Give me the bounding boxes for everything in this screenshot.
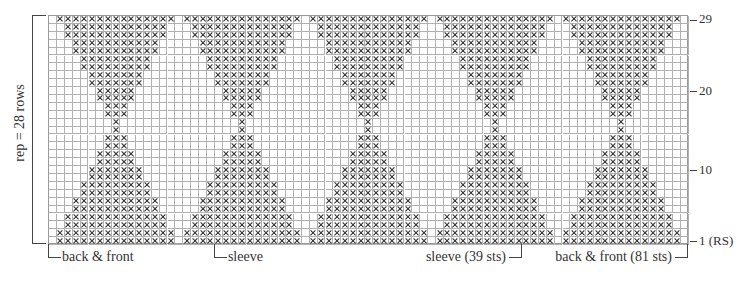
stitch-x: [412, 32, 420, 40]
stitch-x: [96, 40, 104, 48]
stitch-x: [468, 24, 476, 32]
stitch-x: [618, 206, 626, 214]
stitch-x: [626, 214, 634, 222]
stitch-blank: [428, 119, 436, 127]
stitch-blank: [507, 127, 515, 135]
stitch-blank: [57, 63, 65, 71]
stitch-x: [254, 237, 262, 245]
stitch-x: [626, 111, 634, 119]
stitch-blank: [657, 63, 665, 71]
stitch-blank: [160, 135, 168, 143]
stitch-x: [373, 103, 381, 111]
stitch-blank: [531, 135, 539, 143]
stitch-blank: [207, 166, 215, 174]
stitch-blank: [547, 119, 555, 127]
stitch-x: [318, 237, 326, 245]
stitch-x: [341, 56, 349, 64]
stitch-blank: [578, 71, 586, 79]
stitch-x: [610, 111, 618, 119]
stitch-blank: [318, 95, 326, 103]
stitch-blank: [270, 87, 278, 95]
stitch-x: [286, 24, 294, 32]
stitch-blank: [681, 150, 689, 158]
stitch-blank: [144, 135, 152, 143]
stitch-blank: [73, 158, 81, 166]
stitch-blank: [326, 79, 334, 87]
stitch-blank: [563, 32, 571, 40]
stitch-blank: [49, 71, 57, 79]
stitch-x: [247, 56, 255, 64]
stitch-blank: [183, 24, 191, 32]
stitch-blank: [333, 71, 341, 79]
stitch-x: [104, 40, 112, 48]
stitch-x: [262, 237, 270, 245]
stitch-blank: [65, 206, 73, 214]
stitch-x: [349, 95, 357, 103]
stitch-blank: [302, 32, 310, 40]
stitch-blank: [168, 79, 176, 87]
stitch-x: [570, 221, 578, 229]
stitch-x: [626, 237, 634, 245]
stitch-x: [634, 87, 642, 95]
stitch-x: [128, 24, 136, 32]
stitch-blank: [81, 135, 89, 143]
stitch-blank: [183, 221, 191, 229]
stitch-blank: [515, 142, 523, 150]
stitch-x: [389, 198, 397, 206]
stitch-blank: [81, 111, 89, 119]
stitch-blank: [665, 56, 673, 64]
stitch-blank: [262, 95, 270, 103]
stitch-blank: [531, 63, 539, 71]
stitch-blank: [175, 237, 183, 245]
stitch-blank: [405, 87, 413, 95]
stitch-blank: [278, 182, 286, 190]
stitch-blank: [444, 63, 452, 71]
stitch-x: [207, 24, 215, 32]
stitch-x: [468, 174, 476, 182]
stitch-blank: [665, 190, 673, 198]
stitch-x: [191, 24, 199, 32]
stitch-blank: [397, 158, 405, 166]
stitch-blank: [412, 142, 420, 150]
stitch-x: [278, 32, 286, 40]
stitch-x: [223, 48, 231, 56]
stitch-x: [405, 229, 413, 237]
stitch-x: [341, 221, 349, 229]
stitch-blank: [333, 95, 341, 103]
stitch-x: [254, 24, 262, 32]
stitch-blank: [286, 150, 294, 158]
stitch-blank: [555, 71, 563, 79]
stitch-x: [341, 24, 349, 32]
stitch-x: [318, 214, 326, 222]
stitch-x: [254, 79, 262, 87]
stitch-x: [610, 142, 618, 150]
stitch-blank: [586, 79, 594, 87]
stitch-x: [491, 166, 499, 174]
stitch-blank: [515, 135, 523, 143]
stitch-x: [476, 237, 484, 245]
stitch-blank: [444, 40, 452, 48]
stitch-x: [657, 214, 665, 222]
stitch-blank: [49, 24, 57, 32]
stitch-x: [57, 16, 65, 24]
stitch-blank: [136, 142, 144, 150]
stitch-blank: [523, 174, 531, 182]
stitch-blank: [452, 166, 460, 174]
stitch-blank: [191, 150, 199, 158]
stitch-x: [460, 206, 468, 214]
stitch-x: [412, 214, 420, 222]
stitch-x: [491, 24, 499, 32]
stitch-x: [499, 142, 507, 150]
stitch-blank: [420, 127, 428, 135]
stitch-blank: [96, 135, 104, 143]
stitch-blank: [555, 111, 563, 119]
stitch-x: [247, 40, 255, 48]
stitch-x: [484, 214, 492, 222]
stitch-blank: [191, 119, 199, 127]
stitch-x: [231, 71, 239, 79]
stitch-blank: [452, 158, 460, 166]
stitch-x: [618, 40, 626, 48]
stitch-blank: [152, 63, 160, 71]
stitch-blank: [405, 182, 413, 190]
stitch-x: [136, 214, 144, 222]
